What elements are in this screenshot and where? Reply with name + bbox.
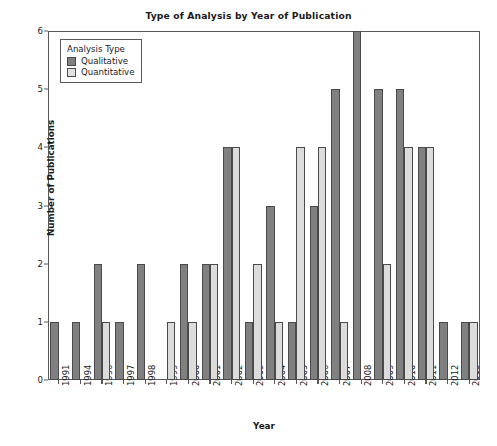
bar-qualitative-2001 [202, 264, 210, 380]
bar-qualitative-2004 [266, 206, 274, 381]
bar-qualitative-2000 [180, 264, 188, 380]
legend-entry-qualitative: Qualitative [67, 57, 134, 66]
x-tick-mark [382, 380, 383, 384]
x-tick-mark [166, 380, 167, 384]
figure-caption [0, 437, 497, 446]
y-tick-mark [44, 263, 48, 264]
legend-entries: QualitativeQuantitative [67, 57, 134, 77]
y-tick-mark [44, 147, 48, 148]
bar-quantitative-2005 [296, 147, 304, 380]
bar-quantitative-2002 [232, 147, 240, 380]
y-tick-mark [44, 380, 48, 381]
bar-qualitative-2009 [374, 89, 382, 380]
x-tick-mark [80, 380, 81, 384]
chart-title: Type of Analysis by Year of Publication [0, 10, 497, 21]
bar-qualitative-1994 [72, 322, 80, 380]
y-tick-mark [44, 321, 48, 322]
x-tick-mark [145, 380, 146, 384]
bar-qualitative-2006 [310, 206, 318, 381]
bar-quantitative-2007 [340, 322, 348, 380]
x-tick-mark [361, 380, 362, 384]
x-tick-mark [296, 380, 297, 384]
x-tick-mark [253, 380, 254, 384]
bar-quantitative-2011 [426, 147, 434, 380]
legend-swatch-icon [67, 68, 76, 77]
bar-qualitative-2008 [353, 31, 361, 380]
bar-qualitative-2007 [331, 89, 339, 380]
x-tick-mark [209, 380, 210, 384]
x-tick-label: 2012 [451, 365, 459, 386]
y-tick-label: 5 [24, 85, 43, 94]
y-tick-label: 0 [24, 376, 43, 385]
bar-qualitative-2005 [288, 322, 296, 380]
x-tick-label: 1994 [84, 365, 92, 386]
bar-quantitative-2003 [253, 264, 261, 380]
x-tick-label: 1997 [127, 365, 135, 386]
y-tick-label: 6 [24, 27, 43, 36]
bar-qualitative-2002 [223, 147, 231, 380]
x-tick-label: 1998 [148, 365, 156, 386]
bar-quantitative-2006 [318, 147, 326, 380]
bar-quantitative-2004 [275, 322, 283, 380]
y-tick-label: 3 [24, 201, 43, 210]
bar-quantitative-2013 [469, 322, 477, 380]
bar-quantitative-2009 [383, 264, 391, 380]
x-tick-mark [231, 380, 232, 384]
bar-quantitative-1999 [167, 322, 175, 380]
legend-swatch-icon [67, 57, 76, 66]
bar-quantitative-2010 [404, 147, 412, 380]
bar-qualitative-1998 [137, 264, 145, 380]
x-tick-mark [447, 380, 448, 384]
y-tick-mark [44, 205, 48, 206]
legend-entry-label: Qualitative [81, 57, 128, 66]
x-axis-label: Year [48, 421, 480, 431]
bar-quantitative-1996 [102, 322, 110, 380]
x-tick-mark [404, 380, 405, 384]
x-tick-mark [317, 380, 318, 384]
y-tick-mark [44, 31, 48, 32]
legend: Analysis Type QualitativeQuantitative [60, 39, 142, 83]
bar-qualitative-2012 [439, 322, 447, 380]
x-tick-label: 2008 [364, 365, 372, 386]
bar-quantitative-2001 [210, 264, 218, 380]
x-tick-mark [339, 380, 340, 384]
bar-qualitative-1996 [94, 264, 102, 380]
x-tick-mark [101, 380, 102, 384]
legend-entry-quantitative: Quantitative [67, 68, 134, 77]
bar-qualitative-1991 [50, 322, 58, 380]
x-tick-mark [123, 380, 124, 384]
y-tick-label: 2 [24, 259, 43, 268]
x-tick-mark [58, 380, 59, 384]
y-tick-label: 4 [24, 143, 43, 152]
x-tick-label: 1991 [62, 365, 70, 386]
bar-qualitative-2011 [418, 147, 426, 380]
bar-qualitative-2003 [245, 322, 253, 380]
bar-qualitative-2013 [461, 322, 469, 380]
bar-qualitative-2010 [396, 89, 404, 380]
legend-entry-label: Quantitative [81, 68, 134, 77]
legend-title: Analysis Type [67, 44, 134, 54]
x-tick-mark [274, 380, 275, 384]
x-tick-mark [425, 380, 426, 384]
bar-quantitative-2000 [188, 322, 196, 380]
plot-area: Number of Publications 0123456 199119941… [48, 31, 480, 380]
x-tick-mark [188, 380, 189, 384]
chart-figure: Type of Analysis by Year of Publication … [0, 0, 497, 446]
x-tick-mark [469, 380, 470, 384]
bar-qualitative-1997 [115, 322, 123, 380]
y-axis-label: Number of Publications [46, 120, 56, 236]
y-tick-label: 1 [24, 318, 43, 327]
y-tick-mark [44, 89, 48, 90]
